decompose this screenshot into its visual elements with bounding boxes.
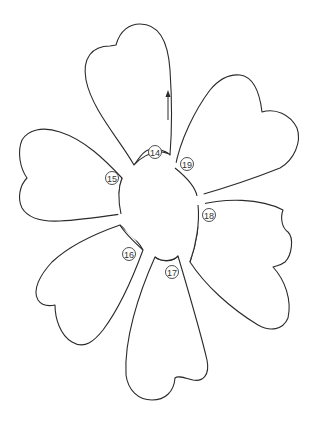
label-15: 15 <box>106 172 119 185</box>
label-17: 17 <box>166 266 179 279</box>
flower-diagram: 14 19 18 17 16 15 <box>0 0 319 426</box>
label-19: 19 <box>181 158 194 171</box>
label-16: 16 <box>123 248 136 261</box>
svg-text:17: 17 <box>167 268 177 278</box>
petal-bottom <box>126 256 208 400</box>
svg-text:19: 19 <box>182 160 192 170</box>
flower-center <box>117 160 205 248</box>
svg-text:18: 18 <box>204 211 214 221</box>
svg-text:16: 16 <box>124 250 134 260</box>
svg-text:15: 15 <box>107 174 117 184</box>
label-14: 14 <box>149 146 162 159</box>
petal-top <box>85 24 171 165</box>
svg-text:14: 14 <box>150 148 160 158</box>
label-18: 18 <box>203 209 216 222</box>
petal-lower-left <box>36 225 143 345</box>
